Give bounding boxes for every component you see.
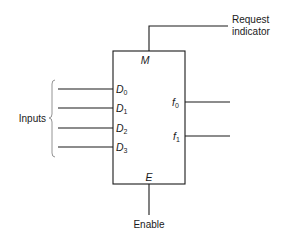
pin-d3-label: D3	[116, 141, 128, 154]
request-label-line2: indicator	[232, 26, 270, 37]
pin-f0-label: f0	[172, 96, 179, 109]
enable-label: Enable	[133, 219, 165, 230]
request-label-line1: Request	[232, 14, 269, 25]
inputs-label: Inputs	[19, 113, 46, 124]
logic-block	[113, 51, 185, 184]
pin-m-label: M	[141, 54, 150, 66]
pin-f1-label: f1	[173, 130, 180, 143]
pin-d0-label: D0	[116, 83, 128, 96]
inputs-brace-icon	[49, 80, 55, 157]
request-indicator-line	[149, 26, 228, 51]
pin-d2-label: D2	[116, 122, 128, 135]
pin-e-label: E	[145, 171, 153, 183]
encoder-diagram: Request indicator M D0 D1 D2 D3 Inputs f…	[0, 0, 286, 238]
pin-d1-label: D1	[116, 102, 128, 115]
